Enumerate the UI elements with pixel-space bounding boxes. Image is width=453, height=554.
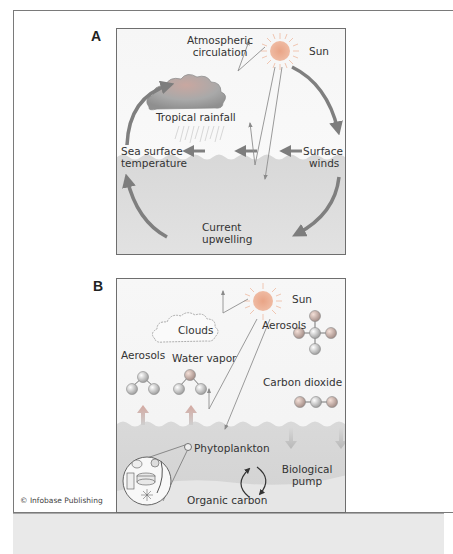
- label-sun: Sun: [309, 45, 329, 57]
- label-atmospheric-circulation: Atmospheric circulation: [175, 34, 265, 58]
- label-tropical-rainfall: Tropical rainfall: [156, 111, 236, 123]
- panel-a-enso-diagram: Atmospheric circulation Sun Tropical rai…: [116, 28, 346, 255]
- label-carbon-dioxide: Carbon dioxide: [263, 376, 342, 388]
- panel-a-letter: A: [91, 28, 101, 44]
- label-water-vapor: Water vapor: [172, 352, 236, 364]
- label-clouds: Clouds: [178, 324, 213, 336]
- label-organic-carbon: Organic carbon: [187, 494, 267, 506]
- copyright-credit: © Infobase Publishing: [20, 496, 103, 505]
- label-sea-surface-temperature: Sea surface temperature: [121, 145, 187, 169]
- label-sun: Sun: [292, 293, 312, 305]
- label-aerosols-left: Aerosols: [121, 349, 165, 361]
- panel-b-letter: B: [93, 278, 103, 294]
- carbon-dioxide-molecule: [295, 397, 338, 408]
- label-current-upwelling: Current upwelling: [202, 221, 252, 245]
- panel-b-carbon-cycle-diagram: Clouds Sun Aerosols Water vapor Aerosols…: [116, 278, 346, 513]
- label-biological-pump: Biological pump: [275, 463, 339, 487]
- label-surface-winds: Surface winds: [303, 145, 343, 169]
- caption-strip: [13, 513, 444, 554]
- label-phytoplankton: Phytoplankton: [194, 442, 270, 454]
- label-aerosols-right: Aerosols: [262, 319, 306, 331]
